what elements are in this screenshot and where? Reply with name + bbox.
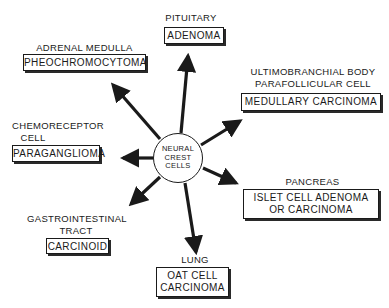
arrow-to-lung	[185, 183, 196, 252]
source-label-lung: LUNG	[175, 254, 215, 265]
tumor-box-lung: OAT CELL CARCINOMA	[156, 267, 229, 297]
source-label-gastrointestinal-1: GASTROINTESTINAL	[22, 213, 132, 224]
source-label-chemoreceptor-2: CELL	[8, 132, 58, 143]
tumor-label-pancreas-1: ISLET CELL ADENOMA	[244, 192, 378, 204]
arrow-to-pituitary	[181, 56, 188, 133]
tumor-box-adrenal: PHEOCHROMOCYTOMA	[23, 54, 146, 71]
tumor-label-gastrointestinal: CARCINOID	[47, 241, 108, 253]
source-label-pancreas: PANCREAS	[265, 176, 360, 187]
tumor-label-chemoreceptor: PARAGANGLIOMA	[13, 148, 99, 160]
arrow-to-pancreas	[203, 168, 236, 183]
center-line-3: CELLS	[165, 162, 190, 171]
arrow-to-gastrointestinal	[131, 177, 160, 204]
tumor-label-lung-2: CARCINOMA	[157, 282, 228, 294]
source-label-gastrointestinal-2: TRACT	[46, 225, 106, 236]
tumor-label-lung-1: OAT CELL	[157, 270, 228, 282]
tumor-box-pituitary: ADENOMA	[164, 27, 224, 44]
tumor-label-ultimobranchial: MEDULLARY CARCINOMA	[242, 96, 380, 108]
source-label-chemoreceptor-1: CHEMORECEPTOR	[8, 120, 108, 131]
source-label-ultimobranchial-2: PARAFOLLICULAR CELL	[243, 78, 383, 89]
source-label-adrenal: ADRENAL MEDULLA	[23, 42, 146, 53]
tumor-box-gastrointestinal: CARCINOID	[46, 238, 109, 254]
tumor-box-pancreas: ISLET CELL ADENOMA OR CARCINOMA	[243, 189, 379, 219]
arrow-to-ultimobranchial	[201, 121, 240, 145]
neural-crest-cells-circle: NEURAL CREST CELLS	[153, 133, 203, 183]
tumor-label-pituitary: ADENOMA	[165, 30, 223, 42]
tumor-label-pancreas-2: OR CARCINOMA	[244, 204, 378, 216]
source-label-ultimobranchial-1: ULTIMOBRANCHIAL BODY	[243, 66, 383, 77]
tumor-box-chemoreceptor: PARAGANGLIOMA	[12, 145, 100, 162]
tumor-box-ultimobranchial: MEDULLARY CARCINOMA	[241, 93, 381, 111]
tumor-label-adrenal: PHEOCHROMOCYTOMA	[24, 57, 145, 69]
neural-crest-diagram: NEURAL CREST CELLS PITUITARY ADENOMA ADR…	[0, 0, 389, 308]
source-label-pituitary: PITUITARY	[161, 12, 221, 23]
arrow-to-adrenal	[113, 85, 160, 139]
